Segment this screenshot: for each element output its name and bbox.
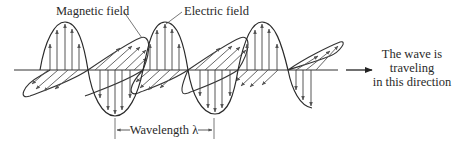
electric-field-wave	[40, 22, 312, 116]
magnetic-field-label: Magnetic field	[56, 4, 130, 18]
wavelength-label: Wavelength λ	[130, 123, 199, 137]
electric-field-label: Electric field	[184, 4, 250, 18]
direction-text-line1: The wave is	[382, 47, 443, 61]
electric-leader-line	[166, 12, 182, 24]
em-wave-diagram: Magnetic field Electric field Wavelength…	[0, 0, 452, 142]
direction-text-line2: traveling	[390, 61, 435, 75]
direction-text-line3: in this direction	[373, 75, 452, 89]
